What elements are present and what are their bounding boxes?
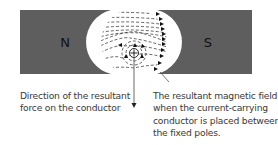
field-caption-line: the fixed poles.	[153, 127, 278, 139]
conductor	[130, 49, 139, 58]
south-pole-label: S	[204, 35, 212, 50]
field-caption-line: conductor is placed between	[153, 115, 278, 127]
north-pole-label: N	[60, 35, 70, 50]
field-caption: The resultant magnetic field when the cu…	[153, 90, 278, 139]
force-caption: Direction of the resultant force on the …	[20, 90, 135, 115]
field-caption-line: The resultant magnetic field	[153, 90, 278, 102]
force-caption-line: force on the conductor	[20, 102, 135, 114]
field-caption-line: when the current-carrying	[153, 102, 278, 114]
magnetic-field-lines	[96, 12, 167, 69]
force-caption-line: Direction of the resultant	[20, 90, 135, 102]
